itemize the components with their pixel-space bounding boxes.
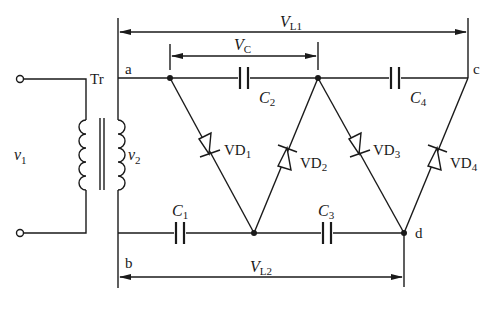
labels: Tr v1 v2 a b c d VL1 VC VL2 C1 C2 C3 C4 … [14, 13, 480, 277]
input-terminal-bottom [17, 230, 24, 237]
transformer-core-icon [100, 118, 104, 190]
junction-d [401, 230, 407, 236]
voltage-multiplier-circuit: Tr v1 v2 a b c d VL1 VC VL2 C1 C2 C3 C4 … [0, 0, 492, 309]
junction-upper-mid [315, 75, 321, 81]
node-a-label: a [125, 61, 132, 77]
node-d-label: d [415, 225, 423, 241]
vd1-label: VD1 [224, 142, 251, 160]
primary-circuit [17, 76, 87, 237]
v2-label: v2 [128, 146, 141, 166]
c4-label: C4 [410, 89, 427, 108]
vd3-label: VD3 [373, 142, 401, 160]
vl1-label: VL1 [280, 13, 302, 32]
node-b-label: b [125, 255, 133, 271]
vl2-label: VL2 [250, 258, 272, 277]
primary-coil-icon [79, 120, 86, 190]
vd2-label: VD2 [300, 155, 327, 173]
vc-label: VC [234, 36, 251, 55]
c3-label: C3 [318, 202, 335, 221]
node-c-label: c [473, 61, 480, 77]
v1-label: v1 [14, 146, 27, 166]
secondary-circuit [118, 18, 125, 288]
c2-label: C2 [259, 89, 275, 108]
input-terminal-top [17, 76, 24, 83]
secondary-coil-icon [118, 120, 125, 190]
transformer-label: Tr [90, 71, 104, 87]
c1-label: C1 [172, 202, 188, 221]
junction-lower-mid [251, 230, 257, 236]
junction-upper-left [167, 75, 173, 81]
vd4-label: VD4 [450, 155, 478, 173]
